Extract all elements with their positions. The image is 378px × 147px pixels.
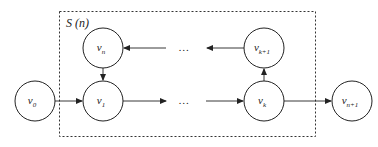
- figure-caption-clipped: [110, 142, 270, 147]
- node-vn1: vn+1: [332, 81, 372, 121]
- boundary-label: S (n): [66, 16, 89, 30]
- node-vn: vn: [83, 28, 123, 68]
- ellipsis-bottom: …: [179, 94, 189, 106]
- ellipsis-top: …: [179, 41, 189, 53]
- node-v0: v0: [15, 81, 55, 121]
- node-vk1: vk+1: [244, 28, 284, 68]
- node-vk: vk: [244, 81, 284, 121]
- graph-diagram: S (n) … … v0 v1 vn vk vk+1 vn+1: [0, 0, 378, 147]
- node-v1: v1: [83, 81, 123, 121]
